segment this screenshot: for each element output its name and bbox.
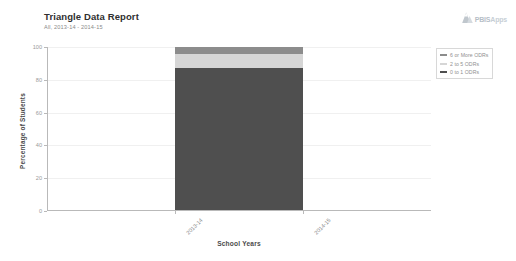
y-axis-tick-label: 60 xyxy=(36,110,42,116)
legend-swatch xyxy=(440,54,447,56)
page-title: Triangle Data Report xyxy=(44,11,139,22)
y-axis-tick xyxy=(44,80,47,81)
legend-label: 0 to 1 ODRs xyxy=(450,69,479,75)
y-axis-tick-label: 0 xyxy=(39,208,42,214)
y-axis-tick xyxy=(44,145,47,146)
y-axis-title: Percentage of Students xyxy=(19,93,26,169)
legend-item[interactable]: 2 to 5 ODRs xyxy=(440,61,488,67)
plot-area: 020406080100 2013-142014-15 xyxy=(47,47,431,211)
logo-text-secondary: Apps xyxy=(490,16,507,23)
y-axis-tick xyxy=(44,113,47,114)
y-axis-tick-label: 100 xyxy=(33,44,42,50)
stacked-band xyxy=(175,54,303,69)
y-axis-tick-label: 20 xyxy=(36,175,42,181)
y-axis-line xyxy=(47,47,48,211)
legend-item[interactable]: 6 or More ODRs xyxy=(440,52,488,58)
page-subtitle: All, 2013-14 - 2014-15 xyxy=(44,24,103,30)
legend-swatch xyxy=(440,71,447,73)
y-axis-tick xyxy=(44,211,47,212)
x-axis-tick xyxy=(303,211,304,214)
logo-wordmark: PBISApps xyxy=(475,16,507,23)
legend-swatch xyxy=(440,63,447,65)
pbisapps-logo: PBISApps xyxy=(462,10,507,28)
y-axis-tick xyxy=(44,178,47,179)
stacked-band xyxy=(175,68,303,210)
report-canvas: Triangle Data Report All, 2013-14 - 2014… xyxy=(0,0,516,261)
x-axis-tick-label: 2014-15 xyxy=(313,217,332,236)
x-axis-tick xyxy=(175,211,176,214)
legend-item[interactable]: 0 to 1 ODRs xyxy=(440,69,488,75)
y-axis-tick-label: 40 xyxy=(36,142,42,148)
x-axis-line xyxy=(47,210,431,211)
legend-label: 6 or More ODRs xyxy=(450,52,488,58)
chart-legend: 6 or More ODRs 2 to 5 ODRs 0 to 1 ODRs xyxy=(436,48,493,79)
logo-text-primary: PBIS xyxy=(475,16,491,23)
stacked-bands xyxy=(175,47,303,210)
legend-label: 2 to 5 ODRs xyxy=(450,61,479,67)
y-axis-tick-label: 80 xyxy=(36,77,42,83)
stacked-band xyxy=(175,47,303,54)
x-axis-title: School Years xyxy=(47,240,431,247)
y-axis-tick xyxy=(44,47,47,48)
mountain-triangle-icon xyxy=(462,10,473,28)
x-axis-tick-label: 2013-14 xyxy=(185,217,204,236)
